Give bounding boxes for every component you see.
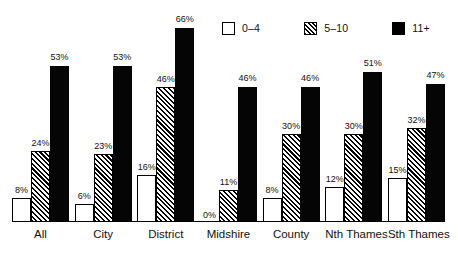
bar-group: 8%30%46% <box>263 0 320 222</box>
bar-value-label: 24% <box>31 139 49 148</box>
plot-area: 8%24%53%6%23%53%16%46%66%0%11%46%8%30%46… <box>12 0 445 222</box>
bar[interactable]: 23% <box>94 154 113 222</box>
bar[interactable]: 8% <box>263 198 282 222</box>
bar-slot: 46% <box>301 0 320 222</box>
x-axis-label: City <box>75 228 132 241</box>
bar[interactable]: 32% <box>407 128 426 222</box>
bar-value-label: 0% <box>203 211 216 220</box>
bar-group: 0%11%46% <box>200 0 257 222</box>
bar-group: 8%24%53% <box>12 0 69 222</box>
bar-value-label: 15% <box>388 166 406 175</box>
bar[interactable]: 16% <box>137 175 156 222</box>
bar-slot: 15% <box>388 0 407 222</box>
x-axis-label: Nth Thames <box>325 228 382 241</box>
x-axis-line <box>12 221 445 222</box>
bar-slot: 46% <box>156 0 175 222</box>
bar[interactable]: 24% <box>31 151 50 222</box>
bar-value-label: 32% <box>407 116 425 125</box>
bar-slot: 53% <box>50 0 69 222</box>
bar-slot: 6% <box>75 0 94 222</box>
bar-value-label: 46% <box>157 75 175 84</box>
bar-slot: 53% <box>113 0 132 222</box>
bar[interactable]: 12% <box>325 187 344 222</box>
x-axis-label: County <box>263 228 320 241</box>
bar[interactable]: 46% <box>301 87 320 222</box>
bar-slot: 23% <box>94 0 113 222</box>
x-axis-label: Sth Thames <box>388 228 445 241</box>
bar[interactable]: 8% <box>12 198 31 222</box>
bar[interactable]: 6% <box>75 204 94 222</box>
bar-slot: 12% <box>325 0 344 222</box>
bar-slot: 8% <box>12 0 31 222</box>
bar-value-label: 46% <box>301 74 319 83</box>
bar-slot: 11% <box>219 0 238 222</box>
bar[interactable]: 47% <box>426 84 445 222</box>
bar-value-label: 53% <box>50 53 68 62</box>
bar-value-label: 51% <box>364 59 382 68</box>
bar-value-label: 53% <box>113 53 131 62</box>
bar[interactable]: 53% <box>50 66 69 222</box>
bar-slot: 66% <box>175 0 194 222</box>
bar-value-label: 11% <box>220 178 237 187</box>
bar-slot: 16% <box>137 0 156 222</box>
bar-group: 16%46%66% <box>137 0 194 222</box>
bar[interactable]: 30% <box>344 134 363 222</box>
x-axis-label: All <box>12 228 69 241</box>
bar-value-label: 12% <box>326 175 344 184</box>
bar-value-label: 47% <box>426 71 444 80</box>
x-axis-label: Midshire <box>200 228 257 241</box>
bar-value-label: 8% <box>15 186 28 195</box>
bar-value-label: 16% <box>138 163 156 172</box>
bar-slot: 30% <box>282 0 301 222</box>
bar-value-label: 30% <box>282 122 300 131</box>
bar-value-label: 30% <box>345 122 363 131</box>
bar-slot: 30% <box>344 0 363 222</box>
bar-slot: 0% <box>200 0 219 222</box>
bar[interactable]: 15% <box>388 178 407 222</box>
bar-value-label: 6% <box>78 192 91 201</box>
bar[interactable]: 46% <box>238 87 257 222</box>
bar-value-label: 46% <box>238 74 256 83</box>
bar-value-label: 23% <box>94 142 112 151</box>
bar[interactable]: 30% <box>282 134 301 222</box>
bar-slot: 32% <box>407 0 426 222</box>
bar[interactable]: 51% <box>363 72 382 222</box>
bar-group: 15%32%47% <box>388 0 445 222</box>
bar-value-label: 8% <box>266 186 279 195</box>
bar[interactable]: 46% <box>156 87 175 222</box>
bar[interactable]: 11% <box>219 190 238 222</box>
bar-group: 6%23%53% <box>75 0 132 222</box>
bar-groups: 8%24%53%6%23%53%16%46%66%0%11%46%8%30%46… <box>12 0 445 222</box>
bar-slot: 46% <box>238 0 257 222</box>
bar-slot: 24% <box>31 0 50 222</box>
bar[interactable]: 66% <box>175 28 194 222</box>
bar-chart: 0–4 5–10 11+ 8%24%53%6%23%53%16%46%66%0%… <box>0 0 458 253</box>
bar-value-label: 66% <box>176 15 194 24</box>
x-axis-labels: AllCityDistrictMidshireCountyNth ThamesS… <box>12 228 445 241</box>
x-axis-label: District <box>137 228 194 241</box>
bar[interactable]: 53% <box>113 66 132 222</box>
bar-slot: 8% <box>263 0 282 222</box>
bar-slot: 51% <box>363 0 382 222</box>
bar-group: 12%30%51% <box>325 0 382 222</box>
bar-slot: 47% <box>426 0 445 222</box>
